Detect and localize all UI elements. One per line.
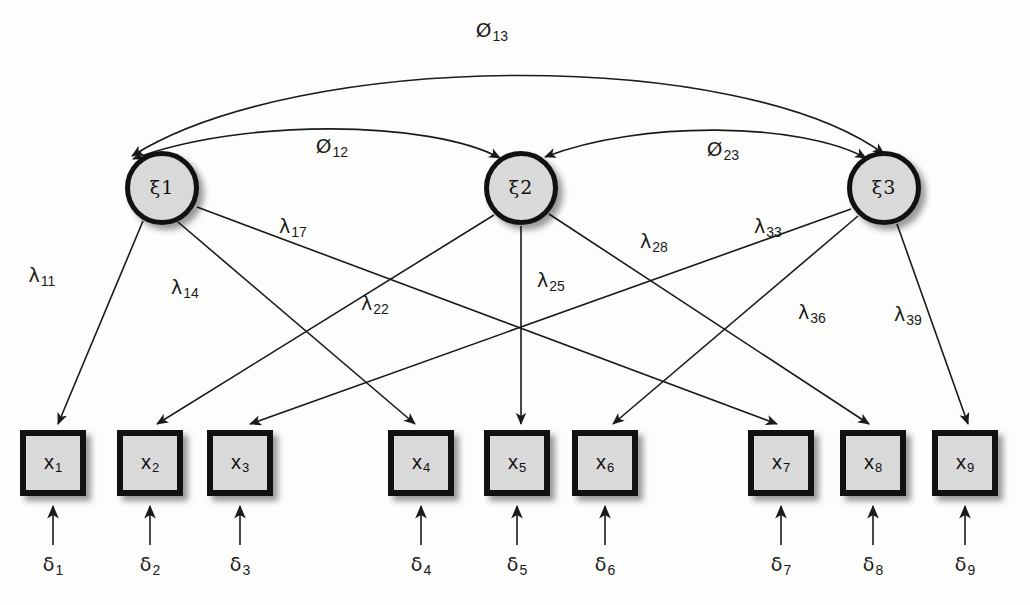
loading-label-lambda36: λ36 (798, 301, 826, 326)
loading-path-lambda11 (58, 221, 143, 424)
correlation-path-phi23 (545, 130, 866, 158)
observed-node-x1[interactable]: x1 (20, 430, 86, 496)
observed-node-x6[interactable]: x6 (572, 430, 638, 496)
error-label-delta1: δ1 (43, 553, 63, 578)
error-label-delta4: δ4 (411, 553, 431, 578)
observed-node-x3[interactable]: x3 (207, 430, 273, 496)
loading-label-lambda17: λ17 (279, 215, 307, 240)
loading-path-lambda14 (178, 222, 415, 424)
loading-label-lambda39: λ39 (894, 303, 922, 328)
observed-node-label: x9 (956, 451, 974, 476)
loading-path-lambda33 (250, 209, 851, 424)
latent-node-label: ξ3 (872, 176, 897, 198)
correlation-label-phi12: Ø12 (316, 134, 348, 160)
loading-label-lambda33: λ33 (754, 215, 782, 240)
error-label-delta2: δ2 (140, 553, 160, 578)
loading-label-lambda11: λ11 (29, 264, 56, 289)
error-label-delta6: δ6 (595, 553, 615, 578)
error-label-delta5: δ5 (507, 553, 527, 578)
observed-node-x5[interactable]: x5 (484, 430, 550, 496)
error-label-delta9: δ9 (955, 553, 975, 578)
loading-label-lambda25: λ25 (537, 269, 565, 294)
loading-label-lambda14: λ14 (171, 276, 199, 301)
observed-node-label: x5 (508, 451, 526, 476)
observed-node-label: x6 (596, 451, 614, 476)
observed-node-x9[interactable]: x9 (932, 430, 998, 496)
correlation-label-phi13: Ø13 (476, 18, 508, 44)
observed-node-label: x2 (141, 451, 159, 476)
latent-node-xi3[interactable]: ξ3 (847, 151, 921, 225)
loading-label-lambda28: λ28 (640, 230, 668, 255)
observed-node-x4[interactable]: x4 (388, 430, 454, 496)
observed-node-x7[interactable]: x7 (748, 430, 814, 496)
correlation-label-phi23: Ø23 (707, 137, 739, 163)
observed-node-x2[interactable]: x2 (117, 430, 183, 496)
error-label-delta7: δ7 (771, 553, 791, 578)
observed-node-label: x7 (772, 451, 790, 476)
error-label-delta8: δ8 (863, 553, 883, 578)
observed-node-x8[interactable]: x8 (840, 430, 906, 496)
observed-node-label: x8 (864, 451, 882, 476)
latent-node-label: ξ1 (150, 176, 175, 198)
latent-node-label: ξ2 (509, 176, 534, 198)
loading-label-lambda22: λ22 (361, 292, 389, 317)
path-diagram-canvas: ξ1 ξ2 ξ3 x1 x2 x3 x4 x5 x6 x7 x8 x9 Ø12 … (0, 0, 1030, 605)
latent-node-xi1[interactable]: ξ1 (125, 151, 199, 225)
correlation-path-phi13 (132, 75, 884, 156)
latent-node-xi2[interactable]: ξ2 (484, 151, 558, 225)
observed-node-label: x3 (231, 451, 249, 476)
observed-node-label: x4 (412, 451, 430, 476)
error-label-delta3: δ3 (230, 553, 250, 578)
observed-node-label: x1 (44, 451, 62, 476)
path-edges-layer (0, 0, 1030, 605)
